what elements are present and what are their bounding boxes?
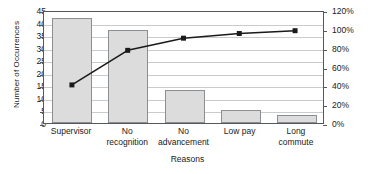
y-axis-right-tick-label: 40% — [332, 82, 349, 91]
cumulative-line-marker — [181, 36, 186, 41]
y-axis-right-tick-label: 100% — [332, 26, 354, 35]
y-axis-right-tick-label: 60% — [332, 64, 349, 73]
x-axis-category-label: Longcommute — [268, 126, 324, 148]
y-axis-left-tickmark — [40, 62, 44, 63]
y-axis-left-tickmark — [40, 112, 44, 113]
x-axis-category-label-line: commute — [268, 137, 324, 148]
x-axis-category-label-line: Supervisor — [43, 126, 99, 137]
cumulative-line-series — [44, 12, 323, 124]
y-axis-right-tickmark — [323, 31, 327, 32]
x-axis-title: Reasons — [0, 154, 375, 164]
cumulative-line-marker — [125, 48, 130, 53]
x-axis-category-label-line: Long — [268, 126, 324, 137]
y-axis-right-tickmark — [323, 50, 327, 51]
cumulative-line-marker — [237, 31, 242, 36]
x-axis-category-label-line: advancement — [155, 137, 211, 148]
x-axis-category-label-line: Low pay — [212, 126, 268, 137]
y-axis-right-tickmark — [323, 87, 327, 88]
x-axis-category-label: Norecognition — [99, 126, 155, 148]
cumulative-line-marker — [293, 28, 298, 33]
x-axis-category-label: Low pay — [212, 126, 268, 137]
y-axis-left-tickmark — [40, 87, 44, 88]
y-axis-left-tickmark — [40, 25, 44, 26]
y-axis-right-tickmark — [323, 12, 327, 13]
pareto-chart: Number of Occurrences 051015202530354045… — [0, 0, 375, 174]
y-axis-right-ticks: 0%20%40%60%80%100%120% — [326, 0, 356, 174]
x-axis-category-label: Noadvancement — [155, 126, 211, 148]
y-axis-right-tick-label: 120% — [332, 7, 354, 16]
y-axis-right-tick-label: 20% — [332, 101, 349, 110]
y-axis-right-tickmark — [323, 106, 327, 107]
plot-area — [43, 11, 324, 124]
x-axis-category-label-line: No — [99, 126, 155, 137]
x-axis-category-label: Supervisor — [43, 126, 99, 137]
y-axis-right-tick-label: 80% — [332, 45, 349, 54]
x-axis-category-label-line: recognition — [99, 137, 155, 148]
y-axis-left-tickmark — [40, 37, 44, 38]
y-axis-left-tickmark — [40, 100, 44, 101]
y-axis-left-tickmark — [40, 12, 44, 13]
cumulative-line-marker — [69, 82, 74, 87]
y-axis-right-tick-label: 0% — [332, 120, 344, 129]
y-axis-left-tickmark — [40, 50, 44, 51]
y-axis-left-tickmark — [40, 75, 44, 76]
y-axis-right-tickmark — [323, 69, 327, 70]
x-axis-category-labels: SupervisorNorecognitionNoadvancementLow … — [43, 126, 324, 154]
x-axis-category-label-line: No — [155, 126, 211, 137]
